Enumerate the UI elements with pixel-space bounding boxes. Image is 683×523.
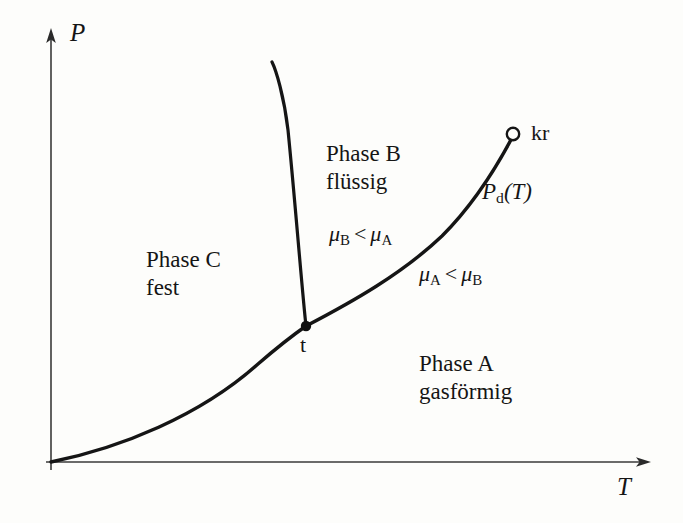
vapor-pressure-argument: (T) <box>504 179 532 204</box>
region-phase-b-line1: Phase B <box>326 141 401 166</box>
region-label-phase-c: Phase C fest <box>146 246 221 302</box>
temperature-axis-label: T <box>617 472 631 503</box>
region-phase-b-line2: flüssig <box>326 168 401 196</box>
relation-less-than-2: < <box>441 261 461 286</box>
vapor-pressure-subscript: d <box>496 189 504 206</box>
melting-curve <box>272 62 306 326</box>
sublimation-curve <box>51 326 306 462</box>
phase-diagram-canvas <box>0 0 683 523</box>
mu-b-subscript: B <box>340 232 350 248</box>
inequality-mu-b-less-mu-a: μB<μA <box>329 221 392 249</box>
pressure-axis-label: P <box>70 18 85 49</box>
region-phase-c-line1: Phase C <box>146 247 221 272</box>
region-label-phase-b: Phase B flüssig <box>326 140 401 196</box>
mu-a-subscript: A <box>381 232 392 248</box>
mu-a-symbol: μ <box>370 221 381 246</box>
region-phase-a-line1: Phase A <box>419 351 494 376</box>
critical-point-marker <box>507 128 519 140</box>
region-phase-a-line2: gasförmig <box>419 378 512 406</box>
mu-b-subscript-2: B <box>472 272 482 288</box>
phase-diagram-figure: P T Phase B flüssig Phase C fest Phase A… <box>0 0 683 523</box>
mu-a-subscript-2: A <box>430 272 441 288</box>
pressure-axis-group <box>46 28 56 470</box>
critical-point-label: kr <box>531 120 549 147</box>
inequality-mu-a-less-mu-b: μA<μB <box>419 261 482 289</box>
region-label-phase-a: Phase A gasförmig <box>419 350 512 406</box>
triple-point-marker <box>301 321 311 331</box>
temperature-axis-group <box>46 457 651 467</box>
mu-b-symbol: μ <box>329 221 340 246</box>
mu-b-symbol-2: μ <box>461 261 472 286</box>
triple-point-label: t <box>300 332 306 359</box>
vapor-pressure-symbol: P <box>482 179 496 204</box>
mu-a-symbol-2: μ <box>419 261 430 286</box>
region-phase-c-line2: fest <box>146 274 221 302</box>
relation-less-than-1: < <box>350 221 370 246</box>
vapor-pressure-curve-label: Pd(T) <box>482 178 532 207</box>
